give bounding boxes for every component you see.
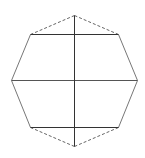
top-right-edge xyxy=(75,16,119,35)
lower-left-side-edge xyxy=(12,81,31,128)
bottom-left-edge xyxy=(31,128,75,147)
bottom-right-edge xyxy=(75,128,119,147)
lower-right-side-edge xyxy=(119,81,138,128)
upper-right-side-edge xyxy=(119,35,138,81)
upper-left-side-edge xyxy=(12,35,31,81)
octagon-diagram xyxy=(0,0,145,158)
top-left-edge xyxy=(31,16,75,35)
diagram-canvas xyxy=(0,0,145,158)
